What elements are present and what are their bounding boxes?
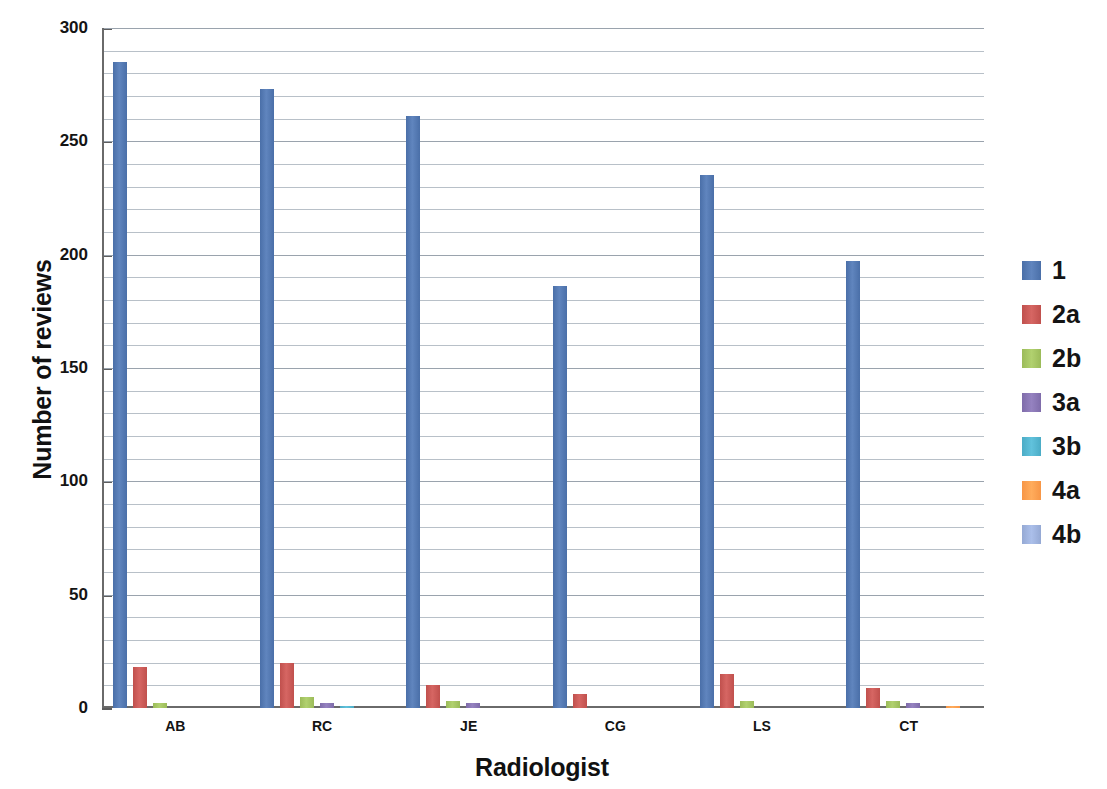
bar-JE-2b	[446, 701, 460, 708]
legend-swatch-4b	[1022, 525, 1041, 544]
bar-chart: Number of reviews 050100150200250300 ABR…	[0, 0, 1107, 789]
legend-swatch-2b	[1022, 349, 1041, 368]
bar-AB-2b	[153, 703, 167, 708]
legend-label-4b: 4b	[1052, 522, 1081, 547]
x-axis-tick-label-JE: JE	[460, 718, 477, 734]
bar-RC-1	[260, 89, 274, 708]
legend-label-4a: 4a	[1052, 478, 1080, 503]
legend-item-3b: 3b	[1022, 424, 1081, 468]
bar-CG-2a	[573, 694, 587, 708]
legend-item-2b: 2b	[1022, 336, 1081, 380]
bar-AB-1	[113, 62, 127, 708]
y-axis-tick-label: 50	[26, 585, 88, 605]
bar-CT-2b	[886, 701, 900, 708]
bar-CG-1	[553, 286, 567, 708]
gridline-minor	[104, 209, 984, 210]
gridline-major	[104, 141, 984, 142]
bar-JE-1	[406, 116, 420, 708]
legend-item-4b: 4b	[1022, 512, 1081, 556]
bar-RC-2b	[300, 697, 314, 708]
bar-RC-3b	[340, 706, 354, 708]
y-axis-tick-label: 300	[26, 18, 88, 38]
chart-legend: 12a2b3a3b4a4b	[1022, 248, 1081, 556]
x-axis-tick-label-CT: CT	[899, 718, 918, 734]
legend-label-3a: 3a	[1052, 390, 1080, 415]
bar-AB-2a	[133, 667, 147, 708]
gridline-major	[104, 28, 984, 29]
y-axis-tick-label: 200	[26, 245, 88, 265]
legend-label-3b: 3b	[1052, 434, 1081, 459]
x-axis-title: Radiologist	[102, 753, 982, 782]
gridline-minor	[104, 119, 984, 120]
bar-JE-3a	[466, 703, 480, 708]
y-axis-tick-labels: 050100150200250300	[10, 0, 88, 789]
bar-CT-2a	[866, 688, 880, 708]
legend-label-2b: 2b	[1052, 346, 1081, 371]
bar-LS-1	[700, 175, 714, 708]
x-axis-tick-label-RC: RC	[312, 718, 332, 734]
legend-label-2a: 2a	[1052, 302, 1080, 327]
gridline-minor	[104, 232, 984, 233]
x-axis-tick-label-CG: CG	[605, 718, 626, 734]
legend-item-4a: 4a	[1022, 468, 1081, 512]
y-axis-tick-label: 150	[26, 358, 88, 378]
y-axis-tick-mark	[102, 708, 112, 710]
legend-item-1: 1	[1022, 248, 1081, 292]
legend-swatch-4a	[1022, 481, 1041, 500]
legend-swatch-2a	[1022, 305, 1041, 324]
gridline-minor	[104, 187, 984, 188]
legend-swatch-3a	[1022, 393, 1041, 412]
x-axis-tick-label-AB: AB	[165, 718, 185, 734]
y-axis-tick-label: 0	[26, 698, 88, 718]
legend-item-2a: 2a	[1022, 292, 1081, 336]
bar-LS-2a	[720, 674, 734, 708]
bar-CT-4a	[946, 706, 960, 708]
y-axis-tick-label: 250	[26, 131, 88, 151]
legend-swatch-3b	[1022, 437, 1041, 456]
gridline-minor	[104, 51, 984, 52]
gridline-minor	[104, 164, 984, 165]
x-axis-tick-label-LS: LS	[753, 718, 771, 734]
gridline-major	[104, 255, 984, 256]
legend-swatch-1	[1022, 261, 1041, 280]
y-axis-tick-label: 100	[26, 471, 88, 491]
bar-RC-3a	[320, 703, 334, 708]
bar-JE-2a	[426, 685, 440, 708]
gridline-minor	[104, 73, 984, 74]
bar-LS-2b	[740, 701, 754, 708]
plot-area	[102, 28, 984, 708]
bar-RC-2a	[280, 663, 294, 708]
bar-CT-3a	[906, 703, 920, 708]
legend-item-3a: 3a	[1022, 380, 1081, 424]
gridline-minor	[104, 96, 984, 97]
bar-CT-1	[846, 261, 860, 708]
legend-label-1: 1	[1052, 258, 1066, 283]
